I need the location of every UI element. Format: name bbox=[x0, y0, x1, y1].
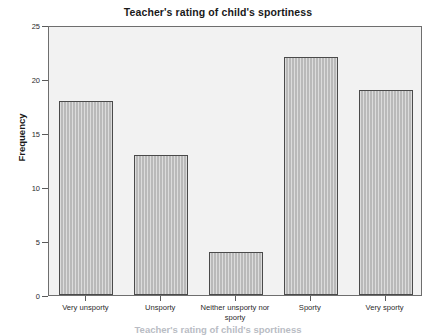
y-axis-tick-label: 0 bbox=[14, 292, 40, 301]
x-axis-tick bbox=[310, 296, 311, 301]
x-axis-tick bbox=[385, 296, 386, 301]
x-axis-tick-label: Sporty bbox=[272, 303, 347, 313]
x-axis-tick bbox=[235, 296, 236, 301]
x-axis-tick-label: Neither unsporty nor sporty bbox=[198, 303, 273, 322]
y-axis-tick-label: 5 bbox=[14, 238, 40, 247]
plot-area bbox=[48, 26, 422, 296]
x-axis-tick-label: Very unsporty bbox=[48, 303, 123, 313]
bar bbox=[134, 155, 188, 295]
x-axis-tick-label: Unsporty bbox=[123, 303, 198, 313]
y-axis-tick bbox=[42, 296, 48, 297]
x-axis-tick-label: Very sporty bbox=[347, 303, 422, 313]
bar bbox=[59, 101, 113, 295]
y-axis-tick-label: 25 bbox=[14, 22, 40, 31]
bar bbox=[284, 57, 338, 295]
x-axis-tick bbox=[85, 296, 86, 301]
bars-layer bbox=[49, 27, 421, 295]
x-axis-tick bbox=[160, 296, 161, 301]
y-axis-tick-label: 20 bbox=[14, 76, 40, 85]
chart-title: Teacher's rating of child's sportiness bbox=[0, 6, 436, 18]
bar bbox=[359, 90, 413, 295]
bar bbox=[209, 252, 263, 295]
y-axis-tick-label: 15 bbox=[14, 130, 40, 139]
x-axis-title: Teacher's rating of child's sportiness bbox=[0, 324, 436, 335]
y-axis-tick-label: 10 bbox=[14, 184, 40, 193]
